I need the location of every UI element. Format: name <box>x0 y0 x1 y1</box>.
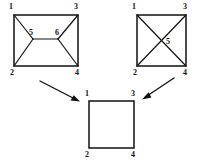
bottom-vertex-label-4: 4 <box>131 150 135 159</box>
bottom-vertex-label-1: 1 <box>85 89 89 98</box>
arrow-left-head <box>71 95 81 101</box>
right-vertex-label-2: 2 <box>133 68 137 77</box>
left-rectangle-outline <box>14 15 78 66</box>
polygon-diagram-svg: 1 3 4 2 5 6 1 3 4 2 5 1 3 4 2 <box>0 0 212 167</box>
arrow-left-figure-to-result <box>40 81 80 102</box>
left-vertex-label-3: 3 <box>74 2 78 11</box>
left-vertex-label-1: 1 <box>9 2 13 11</box>
figure-right-square: 1 3 4 2 5 <box>132 2 187 77</box>
right-vertex-label-4: 4 <box>183 68 187 77</box>
left-edge-3-to-6 <box>58 15 78 39</box>
left-vertex-label-2: 2 <box>10 68 14 77</box>
bottom-vertex-label-2: 2 <box>85 150 89 159</box>
diagram-canvas: 1 3 4 2 5 6 1 3 4 2 5 1 3 4 2 <box>0 0 212 167</box>
figure-bottom-square: 1 3 4 2 <box>85 89 135 159</box>
arrow-right-shaft <box>147 78 174 96</box>
figure-left-rectangle: 1 3 4 2 5 6 <box>9 2 79 77</box>
right-vertex-label-5: 5 <box>166 37 170 46</box>
left-edge-2-to-5 <box>14 39 33 66</box>
right-vertex-label-3: 3 <box>183 2 187 11</box>
left-vertex-label-6: 6 <box>55 28 59 37</box>
left-vertex-label-4: 4 <box>75 68 79 77</box>
left-vertex-label-5: 5 <box>29 28 33 37</box>
arrow-left-shaft <box>40 81 75 99</box>
right-vertex-label-1: 1 <box>132 2 136 11</box>
bottom-vertex-label-3: 3 <box>131 89 135 98</box>
left-edge-4-to-6 <box>58 39 78 66</box>
arrow-right-figure-to-result <box>142 78 174 100</box>
bottom-square-outline <box>89 101 134 148</box>
